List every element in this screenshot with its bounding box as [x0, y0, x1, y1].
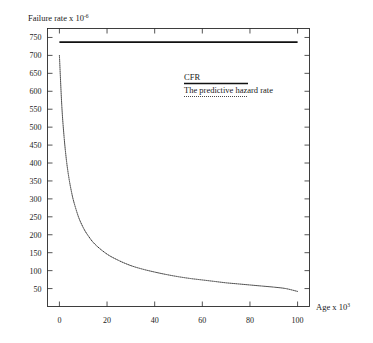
legend-label-cfr: CFR [184, 72, 200, 82]
x-axis-title-exponent: 3 [347, 302, 350, 308]
figure-container: Failure rate x 10-6 Age x 103 5010015020… [0, 0, 373, 343]
y-tick-label: 500 [30, 123, 42, 132]
y-tick-label: 450 [30, 141, 42, 150]
x-tick-label: 100 [292, 316, 304, 325]
y-axis-title: Failure rate x 10-6 [28, 13, 89, 23]
y-tick-label: 300 [30, 195, 42, 204]
y-tick-label: 550 [30, 105, 42, 114]
chart-canvas: Failure rate x 10-6 Age x 103 5010015020… [0, 0, 373, 343]
legend-label-predictive-hazard-rate: The predictive hazard rate [184, 85, 273, 95]
y-tick-label: 100 [30, 267, 42, 276]
y-tick-label: 200 [30, 231, 42, 240]
y-tick-label: 350 [30, 177, 42, 186]
x-axis-title: Age x 103 [316, 302, 350, 312]
y-tick-label: 400 [30, 159, 42, 168]
y-tick-label: 150 [30, 249, 42, 258]
x-tick-label: 60 [198, 316, 206, 325]
y-tick-label: 650 [30, 69, 42, 78]
y-tick-label: 750 [30, 33, 42, 42]
y-axis-title-exponent: -6 [84, 13, 89, 19]
x-axis-ticks [59, 29, 297, 307]
x-axis-title-text: Age x 10 [316, 302, 347, 312]
x-axis-tick-labels: 020406080100 [57, 316, 303, 325]
legend: CFR The predictive hazard rate [184, 72, 273, 97]
y-tick-label: 700 [30, 51, 42, 60]
y-axis-ticks [48, 37, 310, 288]
y-tick-label: 50 [34, 285, 42, 294]
x-tick-label: 0 [57, 316, 61, 325]
plot-frame [48, 29, 310, 307]
y-tick-label: 250 [30, 213, 42, 222]
y-axis-title-text: Failure rate x 10 [28, 13, 84, 23]
x-tick-label: 80 [246, 316, 254, 325]
x-tick-label: 40 [151, 316, 159, 325]
y-tick-label: 600 [30, 87, 42, 96]
y-axis-tick-labels: 5010015020025030035040045050055060065070… [30, 33, 42, 293]
x-tick-label: 20 [103, 316, 111, 325]
